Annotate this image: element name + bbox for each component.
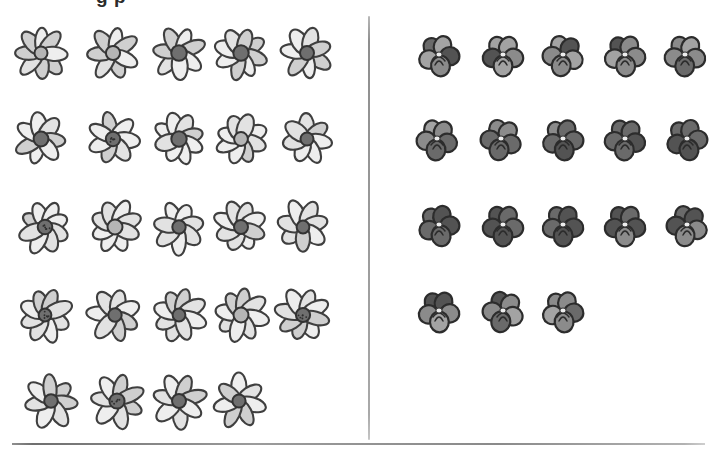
- daisy-icon: [16, 198, 74, 256]
- pansy-icon: [474, 282, 532, 340]
- daisy-row: [0, 24, 366, 96]
- pansy-icon: [410, 196, 468, 254]
- pansy-icon: [474, 26, 532, 84]
- daisy-icon: [150, 286, 208, 344]
- daisy-group: [0, 0, 366, 440]
- pansy-icon: [534, 282, 592, 340]
- pansy-icon: [656, 26, 714, 84]
- pansy-row: [372, 196, 716, 268]
- daisy-icon: [150, 110, 208, 168]
- daisy-icon: [12, 110, 70, 168]
- daisy-icon: [16, 286, 74, 344]
- pansy-icon: [658, 196, 716, 254]
- daisy-icon: [150, 198, 208, 256]
- daisy-icon: [86, 198, 144, 256]
- daisy-icon: [150, 372, 208, 430]
- daisy-row: [0, 286, 366, 358]
- daisy-icon: [12, 24, 70, 82]
- daisy-icon: [150, 24, 208, 82]
- pansy-icon: [474, 196, 532, 254]
- pansy-row: [372, 110, 716, 182]
- daisy-icon: [274, 198, 332, 256]
- pansy-icon: [658, 110, 716, 168]
- pansy-row: [372, 282, 716, 354]
- daisy-row: [0, 198, 366, 270]
- daisy-icon: [278, 24, 336, 82]
- bottom-rule: [12, 443, 705, 445]
- daisy-icon: [88, 372, 146, 430]
- daisy-icon: [278, 110, 336, 168]
- pansy-icon: [472, 110, 530, 168]
- daisy-icon: [22, 372, 80, 430]
- daisy-icon: [212, 110, 270, 168]
- daisy-icon: [84, 110, 142, 168]
- daisy-row: [0, 372, 366, 444]
- daisy-icon: [212, 286, 270, 344]
- pansy-icon: [596, 110, 654, 168]
- daisy-icon: [274, 286, 332, 344]
- daisy-icon: [84, 24, 142, 82]
- pansy-icon: [410, 26, 468, 84]
- daisy-row: [0, 110, 366, 182]
- group-divider: [368, 16, 370, 440]
- pansy-icon: [408, 110, 466, 168]
- pansy-icon: [410, 282, 468, 340]
- pansy-icon: [534, 110, 592, 168]
- pansy-icon: [534, 196, 592, 254]
- pictograph-canvas: g p: [0, 0, 716, 466]
- pansy-group: [372, 0, 716, 440]
- pansy-icon: [534, 26, 592, 84]
- pansy-row: [372, 26, 716, 98]
- pansy-icon: [596, 196, 654, 254]
- daisy-icon: [212, 198, 270, 256]
- pansy-icon: [596, 26, 654, 84]
- daisy-icon: [212, 24, 270, 82]
- daisy-icon: [210, 372, 268, 430]
- daisy-icon: [86, 286, 144, 344]
